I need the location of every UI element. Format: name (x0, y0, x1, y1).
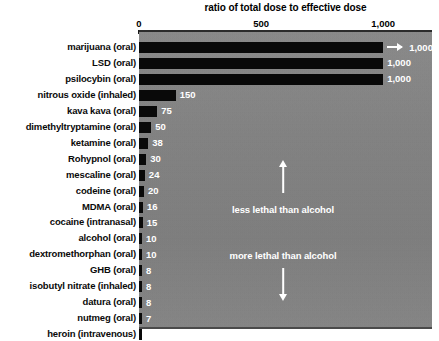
chart-row: mescaline (oral)24 (0, 167, 439, 183)
chart-title: ratio of total dose to effective dose (139, 2, 432, 13)
chart-row: ketamine (oral)38 (0, 135, 439, 151)
bar-category-label: MDMA (oral) (82, 201, 136, 212)
bar (139, 297, 142, 308)
bar (139, 74, 383, 85)
chart-row: codeine (oral)20 (0, 183, 439, 199)
bar (139, 313, 142, 324)
bar (139, 42, 383, 53)
bar (139, 170, 145, 181)
bar-category-label: GHB (oral) (90, 264, 136, 275)
bar-value-label: 1,000 (409, 42, 433, 53)
bar-category-label: nutmeg (oral) (77, 312, 136, 323)
bar (139, 154, 146, 165)
bar (139, 58, 383, 69)
bar (139, 90, 176, 101)
chart-figure: ratio of total dose to effective dose 05… (0, 0, 439, 341)
chart-row: Rohypnol (oral)30 (0, 151, 439, 167)
bar-value-label: 5 (146, 329, 151, 340)
bar-category-label: dimethyltryptamine (oral) (26, 121, 136, 132)
axis-tick-label: 0 (136, 18, 141, 29)
chart-row: MDMA (oral)16 (0, 199, 439, 215)
bar (139, 138, 148, 149)
bar (139, 281, 142, 292)
bar (139, 329, 142, 340)
bar (139, 265, 142, 276)
bar-category-label: dextromethorphan (oral) (29, 248, 136, 259)
bar-category-label: mescaline (oral) (66, 169, 136, 180)
bar-category-label: codeine (oral) (76, 185, 136, 196)
chart-row: kava kava (oral)75 (0, 103, 439, 119)
bar-value-label: 150 (180, 89, 196, 100)
bar-value-label: 75 (161, 105, 172, 116)
chart-row: dextromethorphan (oral)10 (0, 246, 439, 262)
bar-category-label: kava kava (oral) (67, 105, 136, 116)
bar-value-label: 8 (146, 297, 151, 308)
bar-value-label: 16 (147, 201, 158, 212)
bar (139, 249, 142, 260)
bar-value-label: 10 (146, 233, 157, 244)
bar-category-label: Rohypnol (oral) (68, 153, 136, 164)
chart-row: psilocybin (oral)1,000 (0, 71, 439, 87)
chart-row: nutmeg (oral)7 (0, 310, 439, 326)
axis-tick-label: 500 (253, 18, 269, 29)
bar (139, 106, 157, 117)
bar (139, 186, 144, 197)
axis-tick-label: 1,000 (371, 18, 395, 29)
chart-row: GHB (oral)8 (0, 262, 439, 278)
bar-category-label: cocaine (intranasal) (50, 216, 136, 227)
bar-category-label: ketamine (oral) (71, 137, 136, 148)
bar-value-label: 50 (155, 121, 166, 132)
bar-value-label: 20 (148, 185, 159, 196)
overflow-arrow-icon (387, 46, 402, 48)
bar (139, 233, 142, 244)
bar-value-label: 15 (147, 217, 158, 228)
chart-row: heroin (intravenous)5 (0, 326, 439, 341)
bar-category-label: heroin (intravenous) (47, 328, 136, 339)
bar-value-label: 1,000 (387, 57, 411, 68)
bar-value-label: 38 (152, 137, 163, 148)
bar-category-label: datura (oral) (83, 296, 136, 307)
bar-value-label: 30 (150, 153, 161, 164)
bar-category-label: nitrous oxide (inhaled) (38, 89, 136, 100)
chart-row: isobutyl nitrate (inhaled)8 (0, 278, 439, 294)
bar-value-label: 7 (146, 313, 151, 324)
bar-category-label: psilocybin (oral) (65, 73, 136, 84)
chart-row: nitrous oxide (inhaled)150 (0, 87, 439, 103)
bar-value-label: 24 (149, 169, 160, 180)
chart-row: datura (oral)8 (0, 294, 439, 310)
bar-category-label: isobutyl nitrate (inhaled) (30, 280, 136, 291)
bar (139, 202, 143, 213)
bar-value-label: 10 (146, 249, 157, 260)
bar (139, 217, 143, 228)
bar-category-label: marijuana (oral) (67, 41, 136, 52)
bar-value-label: 8 (146, 265, 151, 276)
bar-value-label: 8 (146, 281, 151, 292)
chart-row: alcohol (oral)10 (0, 230, 439, 246)
bar-category-label: LSD (oral) (92, 57, 136, 68)
bar (139, 122, 151, 133)
chart-row: dimethyltryptamine (oral)50 (0, 119, 439, 135)
bar-category-label: alcohol (oral) (78, 232, 136, 243)
chart-row: LSD (oral)1,000 (0, 55, 439, 71)
chart-row: marijuana (oral)1,000 (0, 39, 439, 55)
bar-value-label: 1,000 (387, 73, 411, 84)
chart-row: cocaine (intranasal)15 (0, 214, 439, 230)
